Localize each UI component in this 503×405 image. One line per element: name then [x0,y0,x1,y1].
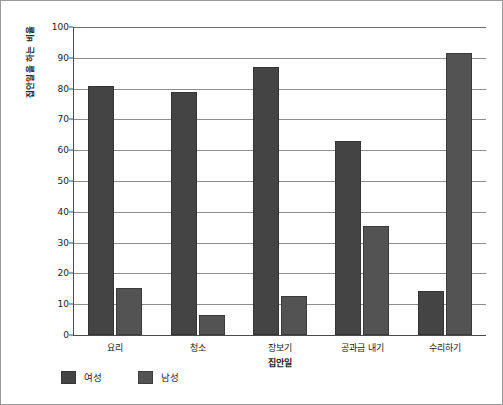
y-axis-tick-mark [69,27,73,28]
y-axis-title: 집안일을 하는 비율 [23,0,35,127]
bar-여성-청소 [171,92,197,335]
x-axis-tick-label: 요리 [107,341,123,354]
y-axis-tick-label: 10 [41,299,69,309]
legend-item-남성[interactable]: 남성 [138,370,179,384]
y-axis-tick-label: 70 [41,114,69,124]
y-axis-tick-labels: 0102030405060708090100 [41,27,69,335]
y-axis-tick-label: 50 [41,176,69,186]
bar-남성-공과금 내기 [363,226,389,335]
legend-label: 남성 [161,370,179,384]
bar-남성-요리 [116,288,142,335]
plot-area [74,27,486,335]
bar-chart-figure: 집안일을 하는 비율 0102030405060708090100 요리청소장보… [0,0,503,405]
bar-남성-청소 [199,315,225,335]
bar-여성-공과금 내기 [335,141,361,335]
y-axis-tick-label: 40 [41,207,69,217]
y-axis-tick-mark [69,242,73,243]
y-axis-tick-mark [69,150,73,151]
x-axis-tick-label: 장보기 [268,341,292,354]
x-axis-title: 집안일 [74,356,486,369]
y-axis-tick-mark [69,57,73,58]
legend-label: 여성 [84,370,102,384]
x-axis-tick-label: 공과금 내기 [341,341,384,354]
bar-남성-수리하기 [446,53,472,335]
y-axis-tick-mark [69,211,73,212]
legend-swatch-icon [138,371,153,384]
y-axis-tick-mark [69,273,73,274]
x-axis-tick-label: 청소 [190,341,206,354]
chart-legend: 여성남성 [61,370,179,384]
bars-layer [74,27,486,335]
x-axis-tick-labels: 요리청소장보기공과금 내기수리하기 [74,341,486,357]
legend-swatch-icon [61,371,76,384]
y-axis-tick-label: 100 [41,22,69,32]
x-axis-tick-label: 수리하기 [429,341,461,354]
y-axis-tick-label: 60 [41,145,69,155]
legend-item-여성[interactable]: 여성 [61,370,102,384]
y-axis-tick-mark [69,181,73,182]
y-axis-tick-label: 30 [41,238,69,248]
y-axis-tick-label: 20 [41,268,69,278]
y-axis-tick-label: 80 [41,84,69,94]
x-axis-line [74,335,486,336]
bar-여성-장보기 [253,67,279,335]
y-axis-tick-mark [69,119,73,120]
bar-여성-수리하기 [418,291,444,335]
y-axis-tick-mark [69,304,73,305]
bar-남성-장보기 [281,296,307,335]
y-axis-tick-label: 90 [41,53,69,63]
y-axis-tick-label: 0 [41,330,69,340]
bar-여성-요리 [88,86,114,335]
y-axis-tick-mark [69,335,73,336]
y-axis-tick-mark [69,88,73,89]
